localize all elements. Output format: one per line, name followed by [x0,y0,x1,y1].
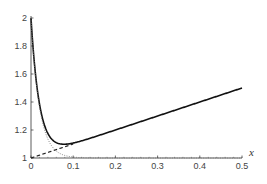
series-dotted-line [31,18,242,158]
x-tick-label: 0.5 [236,161,249,171]
y-tick-label: 2 [22,13,27,23]
x-axis-label: x [248,146,254,158]
x-tick-label: 0.1 [67,161,80,171]
y-tick-label: 1.4 [14,97,27,107]
y-tick-label: 1.8 [14,41,27,51]
series-group [31,18,242,158]
axes [31,16,242,158]
series-solid-line [31,18,242,144]
y-tick-label: 1 [22,153,27,163]
x-tick-label: 0.3 [151,161,164,171]
y-tick-label: 1.2 [14,125,27,135]
chart: 00.10.20.30.40.5 11.21.41.61.82 x [0,0,267,184]
x-tick-label: 0 [28,161,33,171]
y-tick-label: 1.6 [14,69,27,79]
x-tick-label: 0.4 [194,161,207,171]
x-tick-label: 0.2 [109,161,122,171]
